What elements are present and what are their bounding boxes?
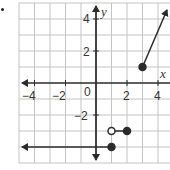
y-axis-label: y bbox=[99, 4, 107, 19]
axes bbox=[22, 6, 170, 160]
x-tick-minus-4: −4 bbox=[22, 89, 36, 103]
x-tick-4: 4 bbox=[154, 89, 161, 103]
closed-point-2-minus-3 bbox=[124, 128, 131, 135]
piece-2-segment bbox=[108, 128, 131, 135]
open-point-1-minus-3 bbox=[108, 128, 115, 135]
x-tick-0: 0 bbox=[84, 85, 91, 99]
closed-point-1-minus-4 bbox=[108, 144, 115, 151]
y-tick-minus-2: −2 bbox=[74, 109, 88, 123]
x-tick-minus-2: −2 bbox=[52, 89, 66, 103]
closed-point-3-1 bbox=[139, 64, 146, 71]
piecewise-graph: y x 4 2 −2 −4 −2 0 2 4 bbox=[0, 0, 170, 170]
x-tick-2: 2 bbox=[123, 89, 130, 103]
x-axis-label: x bbox=[159, 66, 166, 81]
y-tick-2: 2 bbox=[83, 45, 90, 59]
y-tick-4: 4 bbox=[83, 12, 90, 26]
piece-1-ray bbox=[22, 144, 115, 151]
